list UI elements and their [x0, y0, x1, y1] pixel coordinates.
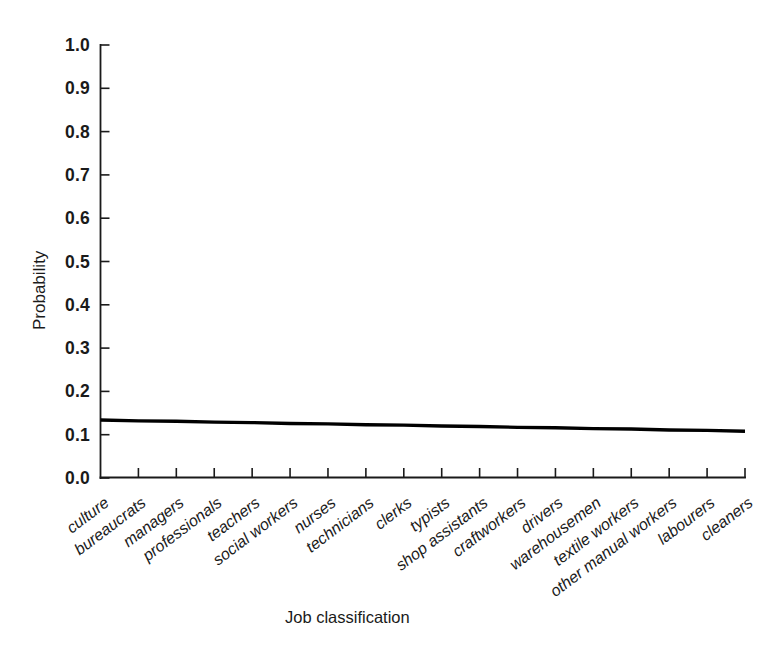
y-axis-title: Probability: [30, 251, 50, 330]
y-tick-label: 0.8: [28, 121, 90, 142]
probability-line: [101, 420, 746, 431]
y-tick-marks: [101, 45, 110, 478]
data-series-group: [101, 420, 746, 431]
y-tick-label: 0.2: [28, 381, 90, 402]
x-tick-marks: [138, 468, 745, 478]
y-tick-label: 0.9: [28, 78, 90, 99]
y-tick-label: 0.3: [28, 338, 90, 359]
axes-group: [101, 45, 746, 478]
plot-canvas: [0, 0, 784, 666]
x-axis-title: Job classification: [285, 608, 410, 627]
y-tick-label: 0.1: [28, 424, 90, 445]
chart-figure: 1.00.90.80.70.60.50.40.30.20.10.0 cultur…: [0, 0, 784, 666]
y-tick-label: 0.7: [28, 164, 90, 185]
y-tick-label: 0.6: [28, 208, 90, 229]
y-tick-label: 1.0: [28, 35, 90, 56]
y-tick-label: 0.0: [28, 468, 90, 489]
